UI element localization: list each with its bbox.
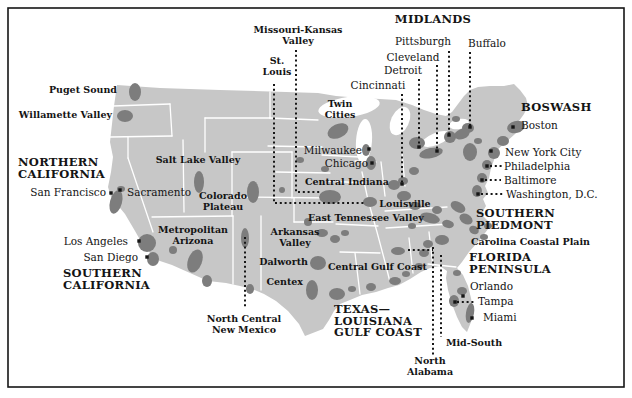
urban-area [409, 167, 419, 175]
urban-area [366, 283, 376, 291]
urban-area [397, 191, 411, 201]
urban-area [304, 218, 312, 226]
urban-area [452, 116, 460, 122]
urban-area [409, 202, 421, 210]
urban-area [138, 234, 156, 252]
urban-area [246, 284, 254, 294]
city-dot [435, 149, 438, 152]
city-dot [367, 147, 370, 150]
city-dot [453, 300, 456, 303]
urban-area [480, 234, 488, 240]
urban-area [423, 240, 433, 248]
city-dot [447, 133, 450, 136]
urban-area [408, 223, 416, 229]
urban-area [415, 263, 423, 269]
city-dot [370, 161, 373, 164]
urban-area [129, 83, 141, 101]
city-dot [109, 191, 112, 194]
urban-area [310, 256, 326, 270]
urban-area [296, 157, 304, 163]
urban-area [391, 247, 405, 255]
urban-area [247, 181, 259, 203]
city-dot [145, 255, 148, 258]
city-dot [476, 192, 479, 195]
urban-area [409, 137, 425, 149]
urban-area [474, 138, 482, 144]
us-urban-regions-map-figure: Puget SoundWillamette ValleyNORTHERN CAL… [0, 0, 632, 398]
urban-area [453, 270, 461, 276]
city-dot [470, 316, 473, 319]
urban-area [279, 187, 285, 193]
urban-area [316, 229, 328, 237]
urban-area [457, 287, 467, 295]
urban-area [329, 288, 345, 300]
city-dot [485, 164, 488, 167]
city-dot [400, 182, 403, 185]
map-canvas [0, 0, 632, 398]
urban-area [432, 206, 442, 214]
urban-area [202, 275, 212, 287]
urban-area [463, 143, 477, 161]
urban-area [497, 136, 509, 146]
city-dot [461, 294, 464, 297]
urban-area [363, 197, 377, 207]
city-dot [417, 145, 420, 148]
urban-area [488, 147, 500, 159]
urban-area [330, 235, 340, 243]
city-dot [137, 239, 140, 242]
urban-area [147, 252, 159, 266]
urban-area [306, 280, 318, 300]
urban-area [402, 271, 410, 277]
urban-area [321, 166, 329, 172]
urban-area [341, 230, 349, 236]
urban-area [435, 235, 449, 245]
urban-area [117, 110, 133, 122]
urban-area [169, 246, 177, 254]
urban-area [348, 286, 356, 292]
urban-area [484, 223, 492, 229]
urban-area [194, 171, 204, 193]
city-dot [480, 178, 483, 181]
city-dot [489, 149, 492, 152]
urban-area [389, 277, 401, 285]
city-dot [468, 125, 471, 128]
city-dot [118, 188, 121, 191]
urban-area [319, 190, 341, 204]
city-dot [511, 125, 514, 128]
